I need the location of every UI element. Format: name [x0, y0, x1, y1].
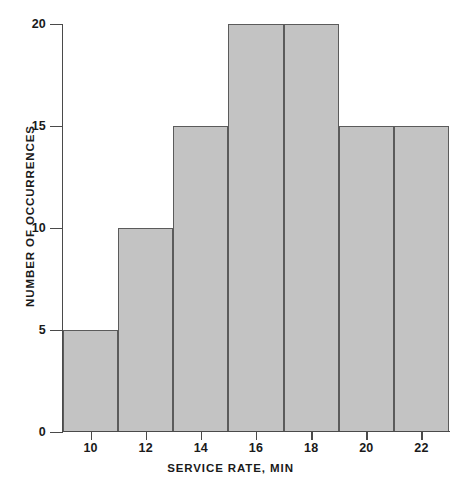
y-tick-mark — [50, 432, 63, 433]
y-tick-label: 0 — [0, 426, 46, 439]
x-tick-mark — [421, 432, 422, 440]
x-tick-mark — [91, 432, 92, 440]
y-tick-mark — [50, 330, 63, 331]
y-axis-title: NUMBER OF OCCURRENCES — [24, 116, 36, 316]
x-axis-title: SERVICE RATE, MIN — [0, 462, 461, 474]
histogram-bar — [118, 228, 173, 432]
x-tick-mark — [201, 432, 202, 440]
histogram-bar — [284, 24, 339, 432]
y-tick-label: 5 — [0, 324, 46, 337]
histogram-bar — [63, 330, 118, 432]
histogram-bar — [394, 126, 449, 432]
x-tick-label: 10 — [71, 442, 111, 455]
x-tick-label: 12 — [126, 442, 166, 455]
y-tick-label: 20 — [0, 18, 46, 31]
x-tick-mark — [256, 432, 257, 440]
x-tick-label: 16 — [236, 442, 276, 455]
histogram-bar — [173, 126, 228, 432]
x-tick-mark — [146, 432, 147, 440]
y-tick-label: 10 — [0, 222, 46, 235]
x-tick-label: 14 — [181, 442, 221, 455]
x-tick-label: 18 — [291, 442, 331, 455]
histogram-chart: 05101520 10121416182022 NUMBER OF OCCURR… — [0, 0, 461, 486]
y-tick-label: 15 — [0, 120, 46, 133]
histogram-bar — [339, 126, 394, 432]
plot-area — [63, 24, 449, 432]
x-tick-mark — [311, 432, 312, 440]
y-tick-mark — [50, 228, 63, 229]
x-tick-label: 22 — [401, 442, 441, 455]
x-tick-mark — [366, 432, 367, 440]
y-tick-mark — [50, 24, 63, 25]
y-tick-mark — [50, 126, 63, 127]
histogram-bar — [228, 24, 283, 432]
x-tick-label: 20 — [346, 442, 386, 455]
